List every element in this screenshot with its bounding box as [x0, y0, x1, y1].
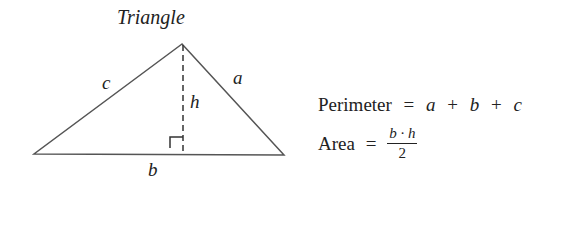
side-a-label: a — [233, 68, 243, 87]
fraction-denominator: 2 — [387, 144, 417, 161]
term-b: b — [470, 94, 480, 115]
side-c-label: c — [102, 73, 110, 92]
side-b-label: b — [148, 160, 158, 179]
plus-sign: + — [447, 94, 458, 115]
right-angle-marker — [170, 137, 183, 148]
perimeter-formula: Perimeter = a + b + c — [318, 95, 522, 114]
term-c: c — [514, 94, 522, 115]
area-formula: Area = b · h 2 — [318, 126, 417, 161]
equals-sign: = — [404, 94, 415, 115]
perimeter-label: Perimeter — [318, 94, 392, 115]
fraction-numerator: b · h — [387, 126, 417, 144]
height-label: h — [190, 92, 200, 111]
area-fraction: b · h 2 — [387, 126, 417, 161]
plus-sign: + — [491, 94, 502, 115]
term-a: a — [426, 94, 436, 115]
equals-sign: = — [366, 133, 377, 154]
triangle-shape — [34, 44, 284, 155]
area-label: Area — [318, 133, 355, 154]
